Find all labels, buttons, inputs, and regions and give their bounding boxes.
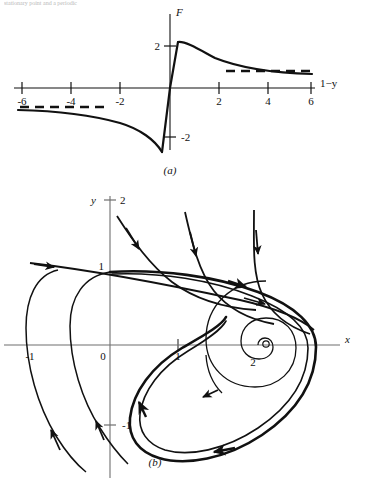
panel-a-xtick-label-1: -4 [66,95,76,107]
panel-b-trajectory-2-arrow [190,232,196,256]
panel-b-xtick-label-0: 0 [100,350,106,362]
panel-a-xtick-label-4: 4 [265,95,271,107]
panel-b-trajectory-left-2 [70,272,128,464]
panel-b-inner-spiral-arrow [203,390,218,397]
panel-a-ytick-label-1: -2 [181,131,190,143]
panel-b: x y 2 1 -1 -1 0 1 2 [4,194,350,478]
panel-a-xtick-label-3: 2 [216,95,222,107]
figure-root: -6 -4 -2 2 4 6 2 -2 F 1−y (a) [0,0,365,485]
panel-b-x-axis-label: x [344,333,350,345]
panel-b-trajectory-1-arrow [126,228,139,249]
panel-a-curve-positive-branch [178,42,312,74]
panel-a-y-axis-label: F [175,6,183,18]
panel-a-x-axis-label: 1−y [320,77,338,89]
panel-b-ytick-label-2: 2 [120,194,126,206]
panel-b-focus-point [263,341,269,347]
panel-b-limit-cycle-outer [110,271,316,461]
panel-b-caption: (b) [149,456,162,469]
panel-b-ytick-label-1: 1 [99,260,105,272]
panel-b-trajectory-1 [117,216,256,310]
panel-a: -6 -4 -2 2 4 6 2 -2 F 1−y (a) [14,6,338,177]
panel-b-trajectory-3-arrow [256,230,258,254]
panel-a-curve-negative-branch [18,110,162,152]
panel-a-xtick-label-5: 6 [308,95,314,107]
panel-a-ytick-label-0: 2 [155,40,161,52]
panel-b-y-axis-label: y [90,194,96,206]
panel-a-xtick-label-2: -2 [115,95,124,107]
panel-a-xtick-label-0: -6 [17,95,27,107]
panel-b-trajectory-left-2-arrow [96,421,104,440]
panel-a-caption: (a) [164,164,177,177]
